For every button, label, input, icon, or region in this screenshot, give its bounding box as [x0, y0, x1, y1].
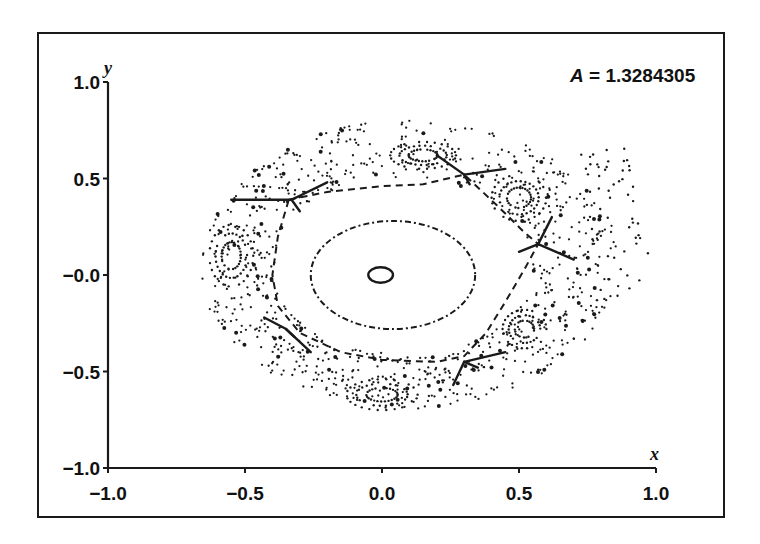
parameter-annotation: A = 1.3284305	[569, 65, 696, 86]
parameter-symbol: A	[569, 65, 584, 86]
y-tick-label: −1.0	[62, 458, 100, 479]
parameter-value: 1.3284305	[605, 65, 695, 86]
hyperbolic-arm	[464, 169, 505, 175]
x-tick-label: 1.0	[643, 483, 669, 504]
hyperbolic-arm	[453, 362, 464, 385]
x-axis-label: x	[649, 444, 659, 464]
hyperbolic-arm	[292, 182, 328, 199]
hyperbolic-arm	[286, 329, 294, 337]
hyperbolic-arm	[519, 244, 538, 252]
axis-ticks	[103, 82, 656, 473]
hyperbolic-arm	[538, 244, 574, 259]
y-tick-label: 1.0	[74, 72, 100, 93]
hyperbolic-arm	[437, 155, 464, 174]
y-axis-label: y	[102, 58, 113, 78]
separatrix-pentagon	[272, 175, 538, 362]
x-tick-label: −0.5	[226, 483, 264, 504]
y-tick-label: −0.0	[62, 265, 100, 286]
tick-labels: −1.0−0.50.00.51.0−1.0−0.5−0.00.51.0	[62, 72, 669, 504]
parameter-equals: =	[584, 65, 606, 86]
y-tick-label: −0.5	[62, 362, 100, 383]
x-tick-label: 0.0	[369, 483, 395, 504]
x-tick-label: −1.0	[89, 483, 127, 504]
phase-portrait-plot: −1.0−0.50.00.51.0−1.0−0.5−0.00.51.0 y x …	[0, 0, 760, 544]
scatter-series	[201, 120, 649, 412]
hyperbolic-arm	[464, 352, 505, 362]
inner-ring	[368, 267, 393, 282]
y-tick-label: 0.5	[74, 169, 101, 190]
x-tick-label: 0.5	[506, 483, 533, 504]
